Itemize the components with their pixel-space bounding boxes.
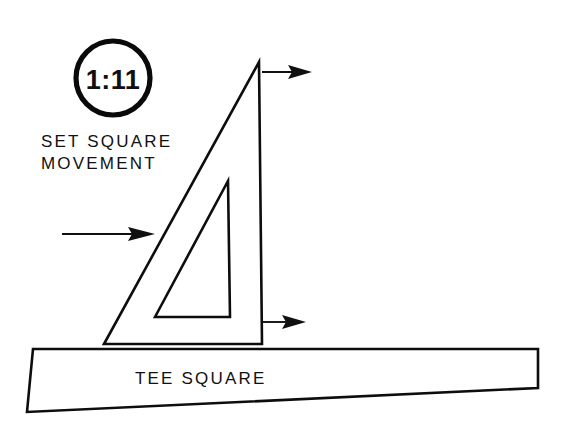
technical-drawing-svg: 1:11 SET SQUARE MOVEMENT TEE SQUARE (0, 0, 580, 424)
page-background (0, 0, 580, 424)
diagram-canvas: 1:11 SET SQUARE MOVEMENT TEE SQUARE (0, 0, 580, 424)
tee-square-label: TEE SQUARE (135, 369, 267, 388)
set-square-label-line-2: MOVEMENT (41, 154, 157, 173)
badge-label: 1:11 (86, 65, 141, 95)
set-square-label-line-1: SET SQUARE (41, 132, 172, 151)
